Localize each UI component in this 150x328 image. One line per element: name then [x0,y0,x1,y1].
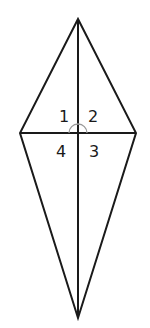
kite-diagram: 1 2 4 3 [0,0,150,328]
angle-label-2: 2 [88,107,98,126]
angle-label-3: 3 [89,142,99,161]
angle-label-1: 1 [59,107,69,126]
kite-svg: 1 2 4 3 [0,0,150,328]
angle-label-4: 4 [56,142,66,161]
